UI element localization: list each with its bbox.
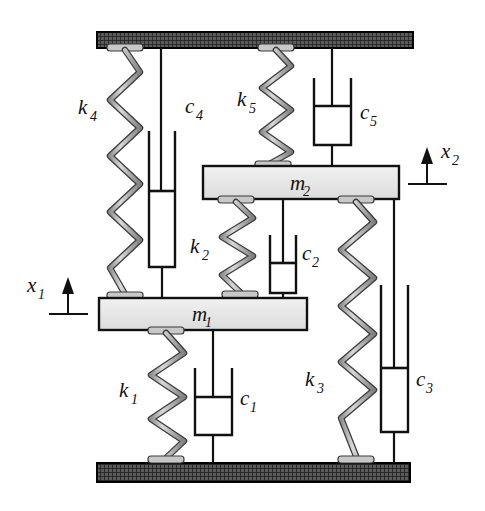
- spring-k2-label: k 2: [190, 234, 209, 263]
- damper-c5: [314, 48, 351, 166]
- ceiling-support: [97, 32, 413, 48]
- coordinate-marker-x2: x 2: [408, 139, 459, 185]
- k2-label-subscript: 2: [202, 248, 209, 263]
- damper-c1: [195, 330, 232, 463]
- c1-label-subscript: 1: [250, 400, 257, 415]
- c4-label-subscript: 4: [196, 108, 203, 123]
- k5-label-letter: k: [237, 87, 247, 111]
- k4-label-subscript: 4: [90, 109, 97, 124]
- k3-label-subscript: 3: [316, 381, 324, 396]
- x2-label-letter: x: [440, 139, 451, 163]
- coordinate-marker-x1: x 1: [26, 273, 88, 315]
- spring-k2: [218, 196, 258, 298]
- spring-k1-label: k 1: [119, 378, 138, 407]
- spring-k5-label: k 5: [237, 87, 256, 116]
- damper-c2-label: c 2: [302, 241, 319, 270]
- c2-label-letter: c: [302, 241, 312, 265]
- ground-support: [97, 463, 410, 482]
- k1-label-subscript: 1: [131, 392, 138, 407]
- damper-c3-label: c 3: [416, 367, 433, 396]
- m2-label-subscript: 2: [303, 184, 310, 199]
- damper-c4-label: c 4: [185, 94, 203, 123]
- damper-c3: [381, 199, 408, 463]
- c4-label-letter: c: [185, 94, 195, 118]
- mechanical-system-diagram: k 4 c 4 k 5 c 5 m 2: [0, 0, 485, 511]
- spring-k3-label: k 3: [305, 367, 324, 396]
- x2-label-subscript: 2: [452, 153, 459, 168]
- k1-label-letter: k: [119, 378, 129, 402]
- damper-c1-label: c 1: [240, 386, 257, 415]
- spring-k5: [255, 44, 294, 168]
- damper-c4: [149, 48, 175, 298]
- k2-label-letter: k: [190, 234, 200, 258]
- c5-label-subscript: 5: [370, 114, 377, 129]
- mass-block-m1: m 1: [99, 298, 307, 330]
- x1-label-letter: x: [26, 273, 37, 297]
- x1-label-subscript: 1: [38, 287, 45, 302]
- c3-label-letter: c: [416, 367, 426, 391]
- spring-k4-label: k 4: [78, 95, 97, 124]
- spring-k3: [338, 196, 374, 463]
- c3-label-subscript: 3: [425, 381, 433, 396]
- c1-label-letter: c: [240, 386, 250, 410]
- damper-c2: [270, 199, 296, 298]
- damper-c5-label: c 5: [360, 100, 377, 129]
- mass-block-m2: m 2: [203, 166, 399, 199]
- k3-label-letter: k: [305, 367, 315, 391]
- c2-label-subscript: 2: [312, 255, 319, 270]
- spring-k1: [148, 327, 184, 463]
- diagram-canvas: k 4 c 4 k 5 c 5 m 2: [0, 0, 485, 511]
- k4-label-letter: k: [78, 95, 88, 119]
- spring-k4: [107, 44, 143, 299]
- m1-label-subscript: 1: [205, 315, 212, 330]
- k5-label-subscript: 5: [249, 101, 256, 116]
- c5-label-letter: c: [360, 100, 370, 124]
